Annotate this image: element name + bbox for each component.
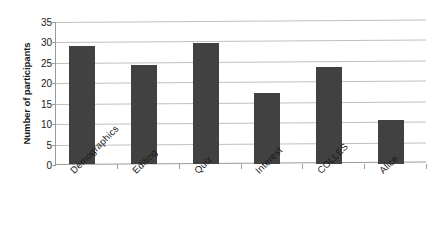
y-axis-tick-label: 30 xyxy=(32,37,52,48)
y-axis-tick xyxy=(51,145,56,146)
y-axis-tick xyxy=(51,63,56,64)
y-axis-tick xyxy=(51,83,56,84)
y-axis-tick-label: 25 xyxy=(32,57,52,68)
plot-area xyxy=(55,22,426,165)
x-axis-tick xyxy=(426,164,427,169)
y-axis-tick xyxy=(51,22,56,23)
gridline xyxy=(55,81,426,84)
y-axis-tick-label: 15 xyxy=(32,98,52,109)
bar xyxy=(193,43,219,164)
gridline xyxy=(55,60,426,63)
gridline xyxy=(55,40,426,43)
y-axis-tick-label: 10 xyxy=(32,119,52,130)
gridline xyxy=(55,101,426,104)
y-axis-tick xyxy=(51,165,56,166)
y-axis-tick xyxy=(51,104,56,105)
y-axis-tick-label: 20 xyxy=(32,78,52,89)
y-axis-tick-label: 5 xyxy=(32,139,52,150)
bar-chart: Number of participants 05101520253035 De… xyxy=(0,0,438,241)
y-axis-tick-label: 35 xyxy=(32,17,52,28)
y-axis-tick xyxy=(51,42,56,43)
gridline xyxy=(55,142,426,145)
y-axis-tick-labels: 05101520253035 xyxy=(26,0,52,241)
y-axis-tick xyxy=(51,124,56,125)
y-axis-tick-label: 0 xyxy=(32,160,52,171)
gridline xyxy=(55,20,426,23)
x-axis-tick-labels: DemographicsEditingQuizInterestCOLLESAli… xyxy=(55,168,426,241)
